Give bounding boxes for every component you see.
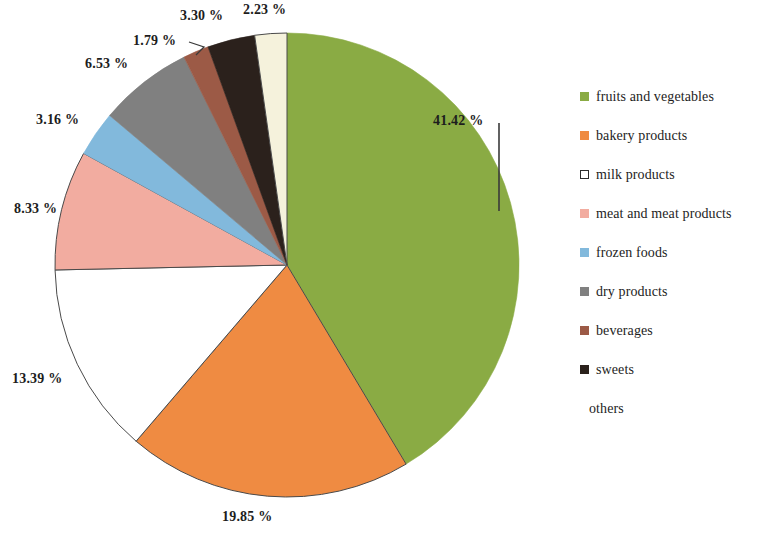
chart-legend: fruits and vegetablesbakery productsmilk… (580, 88, 766, 439)
slice-label-dry-products: 6.53 % (85, 56, 128, 72)
legend-item-milk-products[interactable]: milk products (580, 166, 766, 183)
slice-label-sweets: 3.30 % (180, 8, 223, 24)
legend-item-label: sweets (596, 362, 634, 378)
legend-item-beverages[interactable]: beverages (580, 322, 766, 339)
legend-item-frozen-foods[interactable]: frozen foods (580, 244, 766, 261)
legend-item-label: dry products (596, 284, 668, 300)
legend-item-bakery-products[interactable]: bakery products (580, 127, 766, 144)
legend-item-others[interactable]: others (580, 400, 766, 417)
slice-label-bakery-products: 19.85 % (222, 509, 272, 525)
legend-item-sweets[interactable]: sweets (580, 361, 766, 378)
slice-label-milk-products: 13.39 % (12, 371, 62, 387)
slice-label-frozen-foods: 3.16 % (36, 112, 79, 128)
legend-item-label: meat and meat products (596, 206, 732, 222)
legend-swatch-icon (580, 170, 589, 179)
legend-item-meat-and-meat-products[interactable]: meat and meat products (580, 205, 766, 222)
legend-item-label: beverages (596, 323, 653, 339)
legend-item-fruits-and-vegetables[interactable]: fruits and vegetables (580, 88, 766, 105)
pie-chart-figure: 41.42 % 19.85 % 13.39 % 8.33 % 3.16 % 6.… (0, 0, 768, 535)
legend-swatch-icon (580, 92, 589, 101)
legend-swatch-icon (580, 131, 589, 140)
legend-item-label: others (580, 401, 624, 417)
legend-swatch-icon (580, 365, 589, 374)
slice-label-others: 2.23 % (243, 2, 286, 18)
legend-item-label: milk products (596, 167, 675, 183)
legend-item-label: fruits and vegetables (596, 89, 714, 105)
legend-swatch-icon (580, 326, 589, 335)
legend-item-dry-products[interactable]: dry products (580, 283, 766, 300)
legend-swatch-icon (580, 248, 589, 257)
slice-label-meat-and-meat-products: 8.33 % (14, 201, 57, 217)
legend-item-label: frozen foods (596, 245, 668, 261)
legend-item-label: bakery products (596, 128, 687, 144)
slice-label-beverages: 1.79 % (133, 33, 176, 49)
legend-swatch-icon (580, 287, 589, 296)
slice-label-fruits-and-vegetables: 41.42 % (433, 113, 483, 129)
pie-slice-group (55, 33, 519, 497)
legend-swatch-icon (580, 209, 589, 218)
